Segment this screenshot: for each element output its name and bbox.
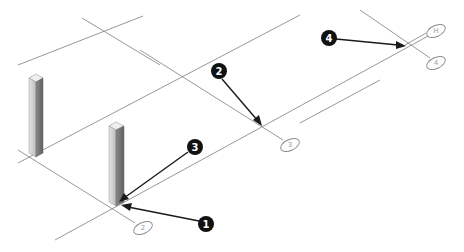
gridline-4-falling	[360, 10, 430, 58]
grid-bubble-label: H	[433, 27, 438, 35]
callout-4: 4	[321, 30, 337, 46]
grid-bubble-label: 2	[141, 224, 145, 232]
gridline-top-rising	[18, 16, 143, 65]
callout-number: 4	[326, 33, 333, 44]
grid-bubble-3: 3	[279, 136, 302, 154]
grid-lines-rising	[18, 15, 430, 240]
column-center	[109, 122, 124, 206]
callout-number: 3	[192, 142, 199, 153]
grid-bubble-label: 4	[434, 59, 439, 67]
leader-4	[336, 39, 406, 49]
grid-bubble-2: 2	[132, 219, 155, 237]
isometric-grid-diagram: H 4 3 2	[0, 0, 464, 252]
callout-2: 2	[211, 63, 227, 79]
gridline-3-falling	[140, 50, 283, 140]
callout-number: 1	[203, 219, 210, 230]
grid-bubble-h: H	[425, 22, 448, 40]
leader-2	[222, 79, 262, 126]
gridline-upper-rising	[300, 80, 380, 123]
leader-3	[119, 152, 188, 202]
gridline-mid-rising	[18, 15, 300, 163]
grid-bubble-label: 3	[288, 141, 292, 149]
diagram-canvas: H 4 3 2	[0, 0, 464, 252]
callout-1: 1	[198, 216, 214, 232]
callout-number: 2	[216, 66, 223, 77]
column-left	[29, 74, 43, 157]
leader-1	[121, 203, 199, 221]
callout-3: 3	[187, 139, 203, 155]
